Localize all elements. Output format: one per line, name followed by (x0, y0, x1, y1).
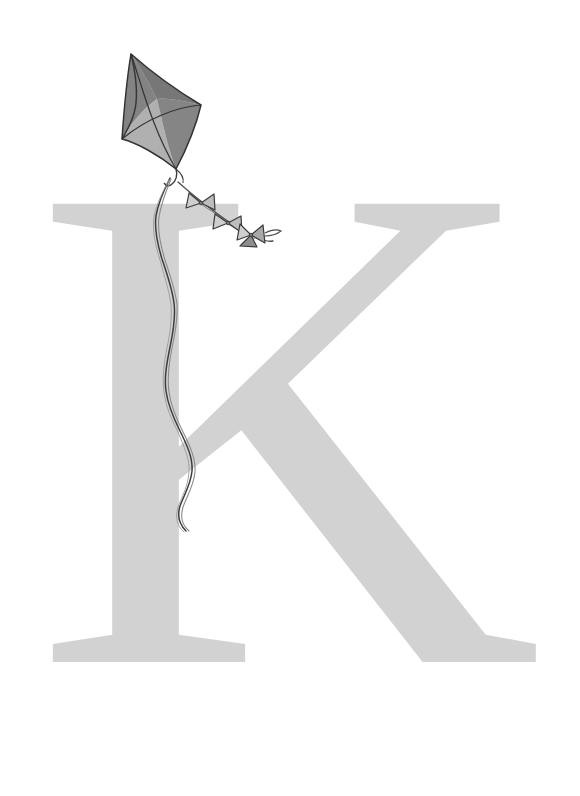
alphabet-letter-page: K (0, 0, 580, 796)
letter-layer: K (0, 0, 580, 796)
letter-glyph: K (0, 0, 580, 796)
letter-character: K (33, 76, 544, 776)
